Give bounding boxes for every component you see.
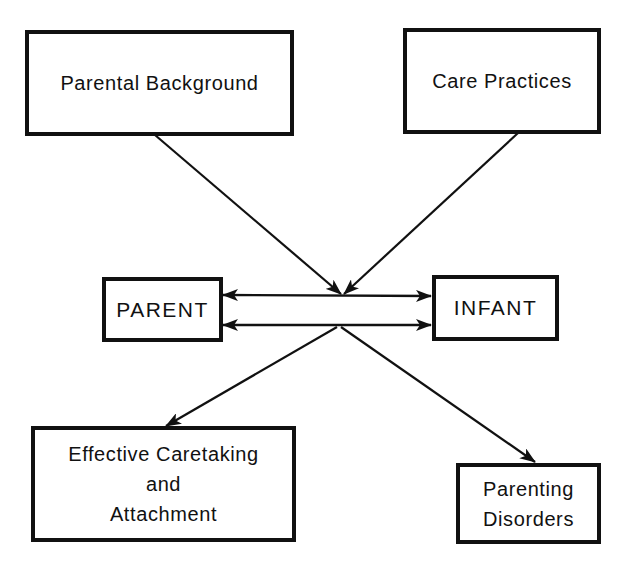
node-parent: PARENT [102, 277, 223, 342]
node-parent-label: PARENT [116, 295, 209, 325]
arrow-parental-background-to-interaction [155, 135, 341, 294]
arrow-interaction-to-parenting-disorders [341, 327, 535, 462]
node-parental-background-label: Parental Background [60, 68, 258, 98]
node-parenting-disorders-line2: Disorders [483, 504, 574, 534]
node-effective-caretaking-line2: and [146, 469, 181, 499]
node-parenting-disorders: Parenting Disorders [456, 463, 601, 544]
node-effective-caretaking-line1: Effective Caretaking [68, 439, 259, 469]
node-parental-background: Parental Background [25, 30, 294, 136]
node-effective-caretaking-line3: Attachment [110, 499, 217, 529]
node-care-practices: Care Practices [403, 28, 601, 134]
node-infant: INFANT [432, 275, 559, 341]
arrow-care-practices-to-interaction [344, 133, 518, 294]
node-effective-caretaking: Effective Caretaking and Attachment [31, 426, 296, 542]
node-infant-label: INFANT [454, 293, 538, 323]
node-parenting-disorders-line1: Parenting [483, 474, 574, 504]
arrow-parent-infant-top [223, 295, 431, 296]
node-care-practices-label: Care Practices [432, 66, 572, 96]
